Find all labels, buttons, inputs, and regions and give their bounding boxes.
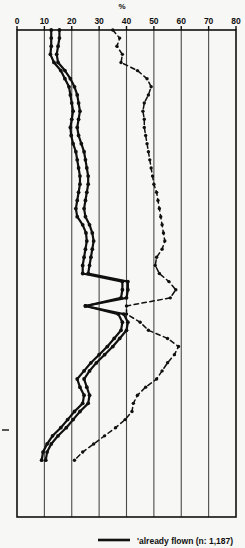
data-point-1-21 (84, 199, 88, 203)
data-point-0-24 (81, 223, 85, 227)
data-point-2-34 (125, 304, 128, 307)
data-point-1-7 (73, 85, 77, 89)
data-point-0-8 (68, 93, 72, 97)
data-point-2-27 (160, 247, 163, 250)
data-point-1-12 (75, 126, 79, 130)
data-point-0-53 (40, 458, 44, 462)
data-point-0-48 (66, 418, 70, 422)
data-point-1-25 (90, 231, 94, 235)
legend-label-already-flown: 'already flown (n: 1,187) (137, 536, 233, 546)
data-point-2-10 (141, 109, 144, 112)
data-point-0-2 (49, 44, 53, 48)
x-tick-label-60: 60 (177, 16, 187, 26)
data-point-1-36 (126, 320, 130, 324)
x-tick-label-50: 50 (149, 16, 159, 26)
x-tick-label-0: 0 (15, 16, 20, 26)
data-point-0-49 (59, 426, 63, 430)
data-point-2-11 (143, 118, 146, 121)
data-point-1-24 (88, 223, 92, 227)
x-tick-label-10: 10 (40, 16, 50, 26)
data-point-2-22 (158, 207, 161, 210)
data-point-2-24 (160, 223, 163, 226)
x-tick-label-80: 80 (231, 16, 241, 26)
data-point-0-32 (120, 288, 124, 292)
data-point-2-2 (115, 45, 118, 48)
data-point-1-30 (86, 272, 90, 276)
data-point-1-14 (79, 142, 83, 146)
data-point-2-13 (144, 134, 147, 137)
data-point-0-7 (67, 85, 71, 89)
data-point-0-13 (69, 134, 73, 138)
data-point-1-47 (78, 410, 82, 414)
data-point-0-50 (51, 434, 55, 438)
data-point-2-30 (158, 272, 161, 275)
data-point-1-15 (82, 150, 86, 154)
data-point-1-33 (125, 296, 129, 300)
data-point-1-4 (56, 61, 60, 65)
data-point-0-51 (45, 442, 49, 446)
data-point-2-51 (92, 442, 95, 445)
data-point-2-3 (121, 53, 124, 56)
data-point-0-41 (89, 361, 93, 365)
data-point-2-53 (73, 458, 76, 461)
data-point-1-5 (63, 69, 67, 73)
data-point-0-16 (75, 158, 79, 162)
data-point-2-9 (143, 101, 146, 104)
data-point-2-5 (136, 69, 139, 72)
data-point-2-18 (151, 174, 154, 177)
data-point-2-38 (166, 337, 169, 340)
data-point-1-49 (64, 426, 68, 430)
data-point-0-25 (84, 231, 88, 235)
data-point-1-38 (118, 337, 122, 341)
data-point-2-35 (125, 312, 128, 315)
data-point-2-37 (147, 329, 150, 332)
data-point-0-23 (75, 215, 79, 219)
data-point-2-4 (119, 61, 122, 64)
data-point-1-42 (88, 369, 92, 373)
data-point-0-38 (112, 337, 116, 341)
data-point-2-43 (155, 377, 158, 380)
data-point-0-9 (70, 101, 74, 105)
data-point-1-22 (82, 207, 86, 211)
data-point-1-40 (103, 353, 107, 357)
data-point-2-15 (147, 150, 150, 153)
data-point-1-46 (86, 401, 90, 405)
data-point-1-41 (94, 361, 98, 365)
data-point-1-51 (49, 442, 53, 446)
data-point-1-28 (89, 255, 93, 259)
data-point-0-10 (71, 109, 75, 113)
data-point-2-46 (132, 402, 135, 405)
data-point-2-32 (174, 288, 177, 291)
data-point-1-3 (55, 52, 59, 56)
data-point-0-18 (78, 174, 82, 178)
data-point-0-28 (82, 255, 86, 259)
data-point-0-37 (119, 328, 123, 332)
data-point-1-2 (56, 44, 60, 48)
data-point-1-17 (85, 166, 89, 170)
x-axis-unit-label: % (118, 2, 125, 11)
data-point-1-9 (77, 101, 81, 105)
data-point-0-14 (71, 142, 75, 146)
data-point-1-31 (126, 280, 130, 284)
data-point-2-16 (148, 158, 151, 161)
data-point-0-5 (59, 69, 63, 73)
data-point-0-40 (97, 353, 101, 357)
x-tick-label-30: 30 (94, 16, 104, 26)
data-point-0-19 (78, 182, 82, 186)
data-point-0-30 (81, 272, 85, 276)
data-point-0-15 (74, 150, 78, 154)
data-point-1-32 (126, 288, 130, 292)
data-point-2-26 (163, 239, 166, 242)
data-point-0-36 (120, 320, 124, 324)
data-point-2-0 (111, 28, 114, 31)
data-point-0-1 (49, 36, 53, 40)
data-point-1-37 (125, 328, 129, 332)
percentage-profile-chart: % 01020304050607080 'already flown (n: 1… (0, 0, 245, 548)
data-point-1-43 (82, 377, 86, 381)
data-point-2-47 (130, 410, 133, 413)
data-point-2-28 (155, 256, 158, 259)
data-point-1-6 (68, 77, 72, 81)
data-point-1-44 (85, 385, 89, 389)
data-point-2-12 (143, 126, 146, 129)
data-point-0-44 (78, 385, 82, 389)
